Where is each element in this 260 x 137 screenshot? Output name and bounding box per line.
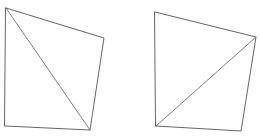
figure-canvas [0, 0, 260, 137]
